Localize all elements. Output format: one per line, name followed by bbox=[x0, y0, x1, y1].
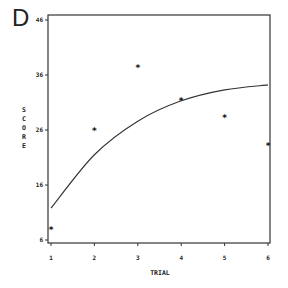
svg-text:R: R bbox=[22, 133, 26, 141]
x-tick-label: 2 bbox=[93, 254, 97, 261]
x-tick-label: 6 bbox=[266, 254, 270, 261]
x-tick-label: 4 bbox=[179, 254, 183, 261]
y-tick-label: 16 bbox=[36, 181, 44, 188]
y-tick-label: 26 bbox=[36, 126, 44, 133]
plot-frame bbox=[48, 15, 270, 243]
x-axis-title: TRIAL bbox=[150, 269, 170, 277]
y-tick-label: 36 bbox=[36, 71, 44, 78]
data-point: * bbox=[179, 96, 184, 106]
data-point: * bbox=[135, 63, 140, 73]
x-axis: 123456 bbox=[49, 243, 270, 261]
x-tick-label: 5 bbox=[223, 254, 227, 261]
data-point: * bbox=[49, 225, 54, 235]
svg-text:S: S bbox=[22, 106, 26, 114]
y-tick-label: 6 bbox=[39, 236, 43, 243]
data-point: * bbox=[266, 141, 271, 151]
y-tick-label: 46 bbox=[36, 16, 44, 23]
chart: 616263646 123456 ****** SCORE TRIAL bbox=[0, 0, 288, 288]
y-axis: 616263646 bbox=[36, 16, 48, 243]
x-tick-label: 3 bbox=[136, 254, 140, 261]
data-points: ****** bbox=[49, 63, 271, 234]
svg-text:C: C bbox=[22, 115, 26, 123]
svg-text:E: E bbox=[22, 142, 26, 150]
data-point: * bbox=[92, 126, 97, 136]
data-point: * bbox=[222, 113, 227, 123]
x-tick-label: 1 bbox=[49, 254, 53, 261]
svg-text:O: O bbox=[22, 124, 26, 132]
fitted-curve bbox=[51, 85, 268, 208]
y-axis-title: SCORE bbox=[22, 106, 26, 150]
